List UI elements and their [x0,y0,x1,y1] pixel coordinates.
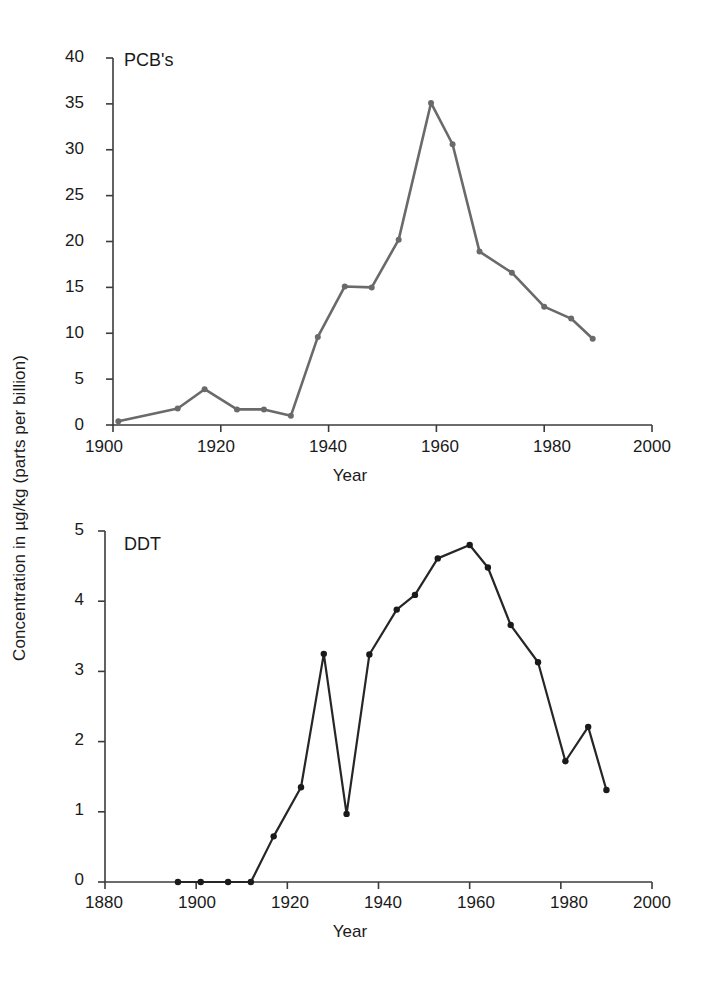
figure-root: Concentration in µg/kg (parts per billio… [0,0,711,982]
chart-plot-ddt [0,0,711,982]
